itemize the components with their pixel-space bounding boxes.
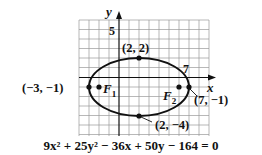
y-tick-label: 5 [109, 24, 115, 38]
ellipse-equation: 9x² + 25y² − 36x + 50y − 164 = 0 [44, 138, 219, 153]
point-top [136, 55, 141, 60]
label-left-vertex: (−3, −1) [22, 81, 63, 95]
x-tick-label: 7 [183, 62, 189, 76]
point-left-vertex [86, 84, 91, 89]
focus-f2 [176, 84, 181, 89]
label-bottom-point: (2, −4) [155, 118, 189, 132]
label-top-point: (2, 2) [122, 41, 149, 55]
focus-f1 [96, 84, 101, 89]
y-axis-arrow-icon [116, 11, 122, 19]
label-right-vertex: (7, −1) [194, 93, 228, 107]
point-bottom [136, 113, 141, 118]
ellipse-diagram: y x 5 7 (2, 2) (2, −4) (−3, −1) (7, −1) … [0, 0, 262, 155]
point-right-vertex [186, 84, 191, 89]
y-axis-label: y [104, 4, 112, 19]
